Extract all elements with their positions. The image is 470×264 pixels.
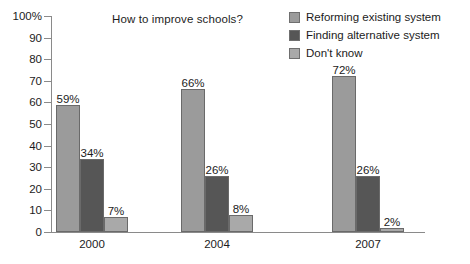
bar-group-2004: 66%26%8% [181, 16, 253, 232]
y-axis-tick-label: 90 [0, 33, 42, 43]
y-axis-tick-label: 80 [0, 54, 42, 64]
y-axis-tick [44, 124, 52, 125]
y-axis-tick [44, 189, 52, 190]
bar-value-label: 8% [233, 203, 250, 215]
bar-group-2000: 59%34%7% [56, 16, 128, 232]
y-axis-label-slot: 50 [0, 119, 42, 129]
bar[interactable]: 7% [104, 217, 128, 232]
y-axis-tick-label: 0 [0, 227, 42, 237]
bar[interactable]: 34% [80, 159, 104, 232]
bar-value-label: 2% [384, 216, 401, 228]
bar[interactable]: 26% [356, 176, 380, 232]
bar[interactable]: 59% [56, 105, 80, 232]
y-axis-tick [44, 167, 52, 168]
y-axis-tick-label: 40 [0, 141, 42, 151]
y-axis-label-slot: 80 [0, 54, 42, 64]
bar[interactable]: 8% [229, 215, 253, 232]
x-axis-tick-label: 2007 [328, 238, 408, 250]
x-axis-tick-label: 2004 [177, 238, 257, 250]
y-axis-label-slot: 70 [0, 76, 42, 86]
y-axis-tick-label: 70 [0, 76, 42, 86]
y-axis-label-slot: 100% [0, 11, 42, 21]
bar-value-label: 7% [108, 205, 125, 217]
y-axis-label-slot: 20 [0, 184, 42, 194]
bar[interactable]: 2% [380, 228, 404, 232]
y-axis-tick-label: 30 [0, 162, 42, 172]
bar[interactable]: 66% [181, 89, 205, 232]
bar[interactable]: 72% [332, 76, 356, 232]
y-axis-tick [44, 59, 52, 60]
bar[interactable]: 26% [205, 176, 229, 232]
y-axis-tick-label: 10 [0, 205, 42, 215]
bar-value-label: 72% [332, 64, 355, 76]
bar-group-2007: 72%26%2% [332, 16, 404, 232]
bar-value-label: 26% [356, 164, 379, 176]
y-axis-tick [44, 210, 52, 211]
bar-value-label: 66% [181, 77, 204, 89]
bar-value-label: 59% [56, 93, 79, 105]
y-axis-tick [44, 38, 52, 39]
plot-area: 59%34%7%66%26%8%72%26%2% [51, 16, 425, 232]
y-axis-tick-label: 60 [0, 97, 42, 107]
x-axis-line [51, 232, 425, 233]
bar-value-label: 34% [80, 147, 103, 159]
y-axis-label-slot: 30 [0, 162, 42, 172]
y-axis-tick [44, 146, 52, 147]
y-axis-label-slot: 0 [0, 227, 42, 237]
y-axis-label-slot: 10 [0, 205, 42, 215]
y-axis-tick-label: 50 [0, 119, 42, 129]
y-axis-tick-label: 100% [0, 11, 42, 21]
x-axis-tick-label: 2000 [52, 238, 132, 250]
y-axis-label-slot: 40 [0, 141, 42, 151]
y-axis-label-slot: 90 [0, 33, 42, 43]
y-axis-tick [44, 232, 52, 233]
y-axis-label-slot: 60 [0, 97, 42, 107]
chart-canvas: How to improve schools? Reforming existi… [0, 0, 470, 264]
y-axis-tick [44, 102, 52, 103]
y-axis-tick [44, 16, 52, 17]
y-axis-tick [44, 81, 52, 82]
y-axis-tick-label: 20 [0, 184, 42, 194]
bar-value-label: 26% [205, 164, 228, 176]
